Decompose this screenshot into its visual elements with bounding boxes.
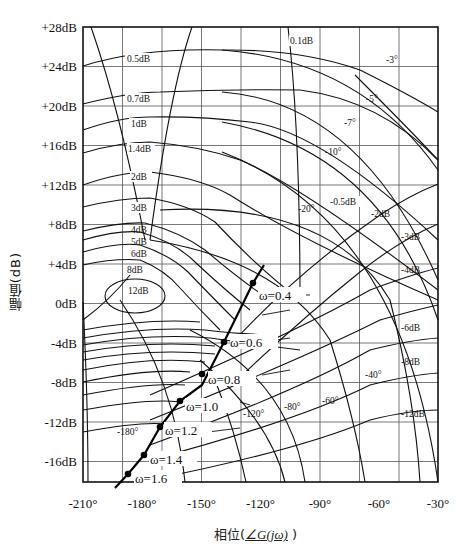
svg-text:-7°: -7°	[344, 118, 356, 128]
svg-text:-5°: -5°	[366, 94, 378, 104]
svg-text:3dB: 3dB	[131, 203, 147, 213]
point-omega-0-4	[250, 280, 257, 287]
svg-text:1.4dB: 1.4dB	[128, 144, 151, 154]
svg-text:ω=1.6: ω=1.6	[135, 471, 168, 486]
svg-text:-3°: -3°	[386, 55, 398, 65]
svg-text:-20°: -20°	[298, 204, 315, 214]
x-axis-label-angle: ∠G(jω)	[245, 527, 288, 542]
svg-text:ω=0.6: ω=0.6	[230, 335, 263, 350]
svg-text:ω=0.8: ω=0.8	[208, 372, 240, 387]
point-omega-1-0	[177, 398, 184, 405]
point-omega-1-6	[125, 471, 132, 478]
svg-text:6dB: 6dB	[131, 249, 147, 259]
svg-text:-4dB: -4dB	[401, 265, 420, 275]
svg-text:-0.5dB: -0.5dB	[330, 197, 356, 207]
x-axis-ticks: -210° -180° -150° -120° -90° -60° -30°	[68, 496, 449, 511]
svg-text:0.5dB: 0.5dB	[127, 54, 150, 64]
svg-text:12dB: 12dB	[128, 286, 149, 296]
x-axis-label: 相位(∠G(jω) )	[214, 524, 297, 543]
svg-text:0dB: 0dB	[55, 296, 77, 311]
svg-text:2dB: 2dB	[131, 172, 147, 182]
svg-text:-180°: -180°	[117, 427, 138, 437]
nichols-chart: +28dB +24dB +20dB +16dB +12dB +8dB +4dB …	[0, 0, 461, 520]
magnitude-labels: 0.1dB 0.5dB 0.7dB 1dB 1.4dB 2dB 3dB 4dB …	[125, 35, 425, 419]
svg-text:+16dB: +16dB	[41, 138, 77, 153]
svg-text:-3dB: -3dB	[401, 232, 420, 242]
svg-text:-6dB: -6dB	[401, 323, 420, 333]
svg-text:-180°: -180°	[127, 496, 156, 511]
svg-text:4dB: 4dB	[131, 225, 147, 235]
svg-text:-10°: -10°	[325, 147, 342, 157]
svg-text:+12dB: +12dB	[41, 178, 77, 193]
svg-text:-12dB: -12dB	[45, 415, 78, 430]
svg-text:0.7dB: 0.7dB	[127, 94, 150, 104]
svg-text:+4dB: +4dB	[48, 257, 77, 272]
svg-text:0.1dB: 0.1dB	[290, 36, 313, 46]
svg-text:+24dB: +24dB	[41, 59, 77, 74]
svg-text:-60°: -60°	[322, 396, 339, 406]
x-axis-label-prefix: 相位(	[214, 527, 245, 542]
svg-text:8dB: 8dB	[127, 265, 143, 275]
svg-text:-120°: -120°	[246, 496, 275, 511]
svg-text:-120°: -120°	[243, 409, 264, 419]
svg-text:-4dB: -4dB	[51, 336, 77, 351]
svg-text:1dB: 1dB	[131, 119, 147, 129]
svg-text:-210°: -210°	[68, 496, 97, 511]
svg-text:-60°: -60°	[368, 496, 391, 511]
svg-text:-30°: -30°	[427, 496, 450, 511]
y-axis-label: 幅值(dB)	[6, 252, 22, 311]
svg-text:+20dB: +20dB	[41, 99, 77, 114]
svg-text:ω=1.2: ω=1.2	[165, 423, 197, 438]
svg-text:+28dB: +28dB	[41, 20, 77, 35]
svg-text:-2dB: -2dB	[371, 209, 390, 219]
svg-text:-12dB: -12dB	[401, 409, 425, 419]
svg-text:-16dB: -16dB	[45, 454, 78, 469]
svg-text:-8dB: -8dB	[51, 375, 77, 390]
svg-text:-90°: -90°	[309, 496, 332, 511]
point-omega-0-8	[199, 371, 206, 378]
svg-text:-150°: -150°	[187, 496, 216, 511]
svg-text:-80°: -80°	[284, 402, 301, 412]
svg-text:5dB: 5dB	[131, 237, 147, 247]
point-omega-0-6	[221, 339, 228, 346]
svg-text:-40°: -40°	[365, 370, 382, 380]
svg-text:+8dB: +8dB	[48, 217, 77, 232]
x-axis-label-suffix: )	[288, 527, 297, 542]
svg-text:ω=1.4: ω=1.4	[150, 452, 183, 467]
point-omega-1-4	[141, 452, 148, 459]
y-axis-ticks: +28dB +24dB +20dB +16dB +12dB +8dB +4dB …	[41, 20, 77, 469]
point-omega-1-2	[157, 424, 164, 431]
svg-text:-8dB: -8dB	[401, 357, 420, 367]
svg-text:ω=1.0: ω=1.0	[186, 399, 218, 414]
svg-text:ω=0.4: ω=0.4	[259, 288, 292, 303]
